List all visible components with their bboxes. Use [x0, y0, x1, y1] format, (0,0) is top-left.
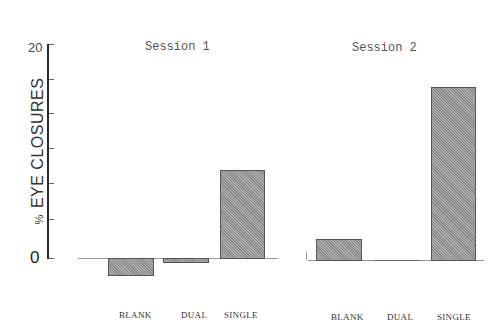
y-axis-line	[47, 44, 49, 259]
y-tick	[49, 258, 54, 259]
bar-session1-single	[220, 170, 265, 259]
y-tick	[49, 79, 54, 80]
bar-session2-blank	[316, 239, 362, 261]
bar-session1-blank	[108, 258, 154, 276]
session1-label-single: SINGLE	[224, 310, 258, 320]
session2-label-single: SINGLE	[437, 312, 471, 322]
y-axis-title-text: EYE CLOSURES	[29, 78, 46, 208]
bar-session2-dual	[374, 260, 420, 261]
y-axis-title-prefix: %	[33, 214, 45, 224]
y-tick	[49, 219, 54, 220]
y-tick	[49, 44, 54, 45]
session1-label-dual: DUAL	[181, 310, 207, 320]
y-tick-label-min: 0	[30, 248, 39, 268]
bar-session2-single	[431, 87, 476, 261]
y-tick	[49, 113, 54, 114]
session2-label-dual: DUAL	[387, 312, 413, 322]
session1-label-blank: BLANK	[119, 310, 152, 320]
session-2-axis-stub	[306, 252, 307, 260]
bar-session1-dual	[163, 258, 209, 263]
y-tick-label-max: 20	[28, 40, 42, 55]
session-1-title: Session 1	[145, 40, 210, 54]
session-2-title: Session 2	[352, 41, 417, 55]
y-tick	[49, 183, 54, 184]
session2-label-blank: BLANK	[331, 312, 364, 322]
y-axis-title: %EYE CLOSURES	[29, 71, 47, 231]
y-tick	[49, 148, 54, 149]
